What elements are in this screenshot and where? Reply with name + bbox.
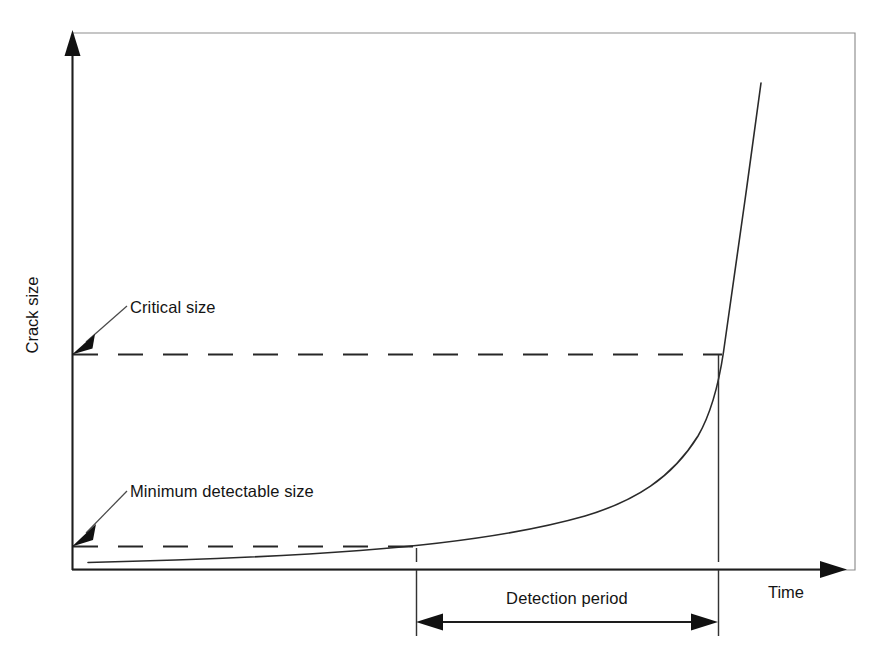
x-axis-arrowhead-right-icon xyxy=(820,561,847,578)
crack-growth-figure: Critical size Minimum detectable size De… xyxy=(0,0,881,663)
minimum-detectable-size-label: Minimum detectable size xyxy=(130,482,314,500)
minimum-detectable-size-arrowhead-icon xyxy=(72,524,96,547)
y-axis-arrowhead-up-icon xyxy=(65,30,81,56)
y-axis-label: Crack size xyxy=(23,276,41,353)
y-axis xyxy=(65,30,81,570)
critical-size-leader xyxy=(72,306,127,355)
detection-period-dimension xyxy=(416,614,718,631)
critical-size-arrowhead-icon xyxy=(72,334,95,355)
critical-size-label: Critical size xyxy=(130,298,216,316)
detection-period-left-arrowhead-icon xyxy=(416,614,443,631)
detection-period-label: Detection period xyxy=(506,589,628,607)
figure-canvas: Critical size Minimum detectable size De… xyxy=(0,0,881,663)
x-axis-label: Time xyxy=(768,583,804,601)
x-axis xyxy=(72,561,847,578)
detection-period-right-arrowhead-icon xyxy=(691,614,718,631)
minimum-detectable-size-leader xyxy=(72,491,127,547)
